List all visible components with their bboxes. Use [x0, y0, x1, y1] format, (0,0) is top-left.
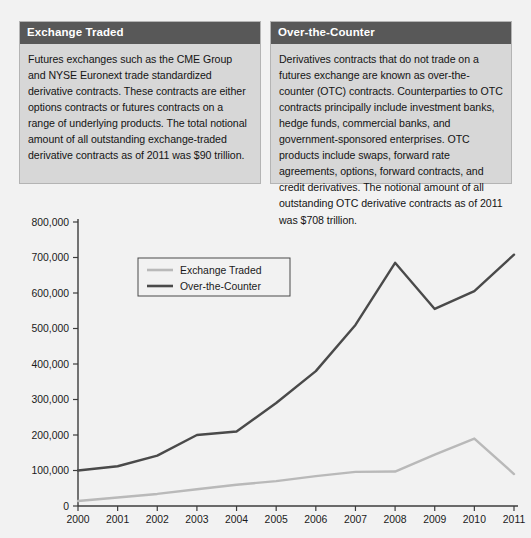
- page-root: Exchange Traded Futures exchanges such a…: [0, 0, 531, 538]
- y-tick-label: 300,000: [31, 394, 69, 405]
- x-axis-group: 2000200120022003200420052006200720082009…: [66, 506, 525, 525]
- x-tick-label: 2000: [66, 514, 89, 525]
- x-tick-label: 2004: [225, 514, 248, 525]
- x-tick-label: 2007: [344, 514, 367, 525]
- panel-over-the-counter-title: Over-the-Counter: [271, 22, 511, 44]
- y-axis-tick-labels: 0100,000200,000300,000400,000500,000600,…: [31, 217, 69, 512]
- info-panels: Exchange Traded Futures exchanges such a…: [19, 21, 512, 184]
- panel-exchange-traded: Exchange Traded Futures exchanges such a…: [19, 21, 261, 184]
- y-tick-label: 200,000: [31, 430, 69, 441]
- y-tick-label: 400,000: [31, 359, 69, 370]
- panel-over-the-counter: Over-the-Counter Derivatives contracts t…: [270, 21, 512, 184]
- x-axis-ticks: [78, 506, 514, 511]
- x-tick-label: 2003: [185, 514, 208, 525]
- y-tick-label: 500,000: [31, 323, 69, 334]
- chart-legend: Exchange TradedOver-the-Counter: [138, 258, 290, 296]
- x-tick-label: 2001: [106, 514, 129, 525]
- y-tick-label: 600,000: [31, 288, 69, 299]
- x-tick-label: 2008: [384, 514, 407, 525]
- y-tick-label: 700,000: [31, 252, 69, 263]
- y-axis-group: 0100,000200,000300,000400,000500,000600,…: [31, 217, 78, 512]
- chart-svg: 0100,000200,000300,000400,000500,000600,…: [0, 206, 531, 538]
- x-tick-label: 2005: [265, 514, 288, 525]
- legend-label: Over-the-Counter: [180, 281, 261, 292]
- series-line-exchange-traded: [78, 439, 514, 501]
- y-tick-label: 0: [63, 501, 69, 512]
- x-axis-tick-labels: 2000200120022003200420052006200720082009…: [66, 514, 525, 525]
- panel-exchange-traded-body: Futures exchanges such as the CME Group …: [20, 44, 260, 170]
- x-tick-label: 2006: [304, 514, 327, 525]
- x-tick-label: 2010: [463, 514, 486, 525]
- y-axis-ticks: [73, 222, 78, 506]
- legend-label: Exchange Traded: [180, 265, 262, 276]
- y-tick-label: 800,000: [31, 217, 69, 228]
- y-tick-label: 100,000: [31, 465, 69, 476]
- derivatives-line-chart: 0100,000200,000300,000400,000500,000600,…: [0, 206, 531, 538]
- x-tick-label: 2011: [503, 514, 526, 525]
- panel-exchange-traded-title: Exchange Traded: [20, 22, 260, 44]
- x-tick-label: 2002: [146, 514, 169, 525]
- x-tick-label: 2009: [423, 514, 446, 525]
